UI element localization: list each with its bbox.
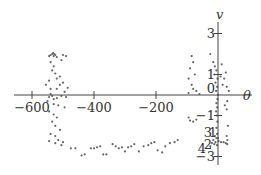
data-point bbox=[127, 146, 129, 148]
data-point bbox=[65, 96, 67, 98]
data-point bbox=[189, 67, 191, 69]
x-tick-label: −400 bbox=[76, 100, 112, 115]
data-point bbox=[164, 145, 166, 147]
data-point bbox=[223, 141, 225, 143]
data-point bbox=[57, 104, 59, 106]
data-point bbox=[96, 146, 98, 148]
data-point bbox=[157, 149, 159, 151]
data-point bbox=[192, 121, 194, 123]
data-point bbox=[48, 140, 50, 142]
data-point bbox=[112, 143, 114, 145]
data-point bbox=[214, 141, 216, 143]
data-point bbox=[223, 78, 225, 80]
data-point bbox=[192, 88, 194, 90]
data-point bbox=[161, 151, 163, 153]
data-point bbox=[188, 116, 190, 118]
data-point bbox=[188, 78, 190, 80]
data-point bbox=[138, 150, 140, 152]
data-point bbox=[70, 147, 72, 149]
data-point bbox=[59, 75, 61, 77]
data-point bbox=[226, 139, 228, 141]
data-point bbox=[226, 143, 228, 145]
data-point bbox=[192, 61, 194, 63]
data-point bbox=[189, 120, 191, 122]
data-point bbox=[64, 91, 66, 93]
data-point bbox=[191, 84, 193, 86]
data-point bbox=[102, 153, 104, 155]
data-point bbox=[209, 53, 211, 55]
data-point bbox=[54, 72, 56, 74]
data-point bbox=[220, 141, 222, 143]
data-point bbox=[57, 139, 59, 141]
data-point bbox=[133, 143, 135, 145]
data-point bbox=[65, 55, 67, 57]
data-point bbox=[53, 103, 55, 105]
data-point bbox=[177, 139, 179, 141]
data-point bbox=[215, 102, 217, 104]
data-point bbox=[130, 145, 132, 147]
data-point bbox=[226, 108, 228, 110]
data-point bbox=[81, 154, 83, 156]
data-point bbox=[84, 153, 86, 155]
y-tick-label: −1 bbox=[196, 108, 215, 123]
y-tick-label: 0 bbox=[207, 81, 215, 96]
data-point bbox=[188, 92, 190, 94]
data-point bbox=[226, 86, 228, 88]
x-axis-label: θ bbox=[243, 88, 251, 103]
data-point bbox=[143, 145, 145, 147]
data-point bbox=[64, 106, 66, 108]
data-point bbox=[90, 147, 92, 149]
scatter-plot: −600−400−200 310−1−3 θ v 3142 bbox=[0, 0, 261, 175]
data-point bbox=[225, 71, 227, 73]
data-point bbox=[215, 90, 217, 92]
data-point bbox=[48, 96, 50, 98]
data-point bbox=[62, 141, 64, 143]
data-point bbox=[50, 88, 52, 90]
data-point bbox=[221, 63, 223, 65]
data-point bbox=[150, 142, 152, 144]
data-point bbox=[45, 84, 47, 86]
data-point bbox=[48, 80, 50, 82]
data-point bbox=[115, 145, 117, 147]
data-point bbox=[54, 142, 56, 144]
data-point bbox=[51, 69, 53, 71]
y-tick-label: 1 bbox=[207, 67, 215, 82]
data-point bbox=[224, 104, 226, 106]
data-point bbox=[215, 110, 217, 112]
data-point bbox=[93, 147, 95, 149]
data-point bbox=[56, 78, 58, 80]
data-point bbox=[195, 90, 197, 92]
data-point bbox=[169, 142, 171, 144]
data-point bbox=[222, 84, 224, 86]
data-point bbox=[153, 141, 155, 143]
data-point bbox=[48, 55, 50, 57]
data-point bbox=[60, 144, 62, 146]
data-point bbox=[212, 61, 214, 63]
data-point bbox=[67, 87, 69, 89]
data-point bbox=[50, 61, 52, 63]
overlap-tick-label: 2 bbox=[204, 137, 212, 152]
data-point bbox=[50, 133, 52, 135]
data-point bbox=[62, 82, 64, 84]
data-point bbox=[60, 59, 62, 61]
data-point bbox=[215, 69, 217, 71]
data-point bbox=[194, 73, 196, 75]
data-point bbox=[53, 113, 55, 115]
data-point bbox=[53, 65, 55, 67]
data-point bbox=[118, 147, 120, 149]
data-point bbox=[226, 100, 228, 102]
data-point bbox=[62, 54, 64, 56]
x-tick-label: −200 bbox=[138, 100, 174, 115]
y-tick-label: 3 bbox=[207, 26, 215, 41]
data-point bbox=[56, 88, 58, 90]
data-point bbox=[59, 129, 61, 131]
data-point bbox=[191, 55, 193, 57]
data-point bbox=[213, 143, 215, 145]
data-point bbox=[226, 135, 228, 137]
data-point bbox=[56, 56, 58, 58]
data-point bbox=[121, 146, 123, 148]
data-point bbox=[56, 97, 58, 99]
data-point bbox=[99, 145, 101, 147]
data-point bbox=[219, 75, 221, 77]
data-point bbox=[74, 147, 76, 149]
